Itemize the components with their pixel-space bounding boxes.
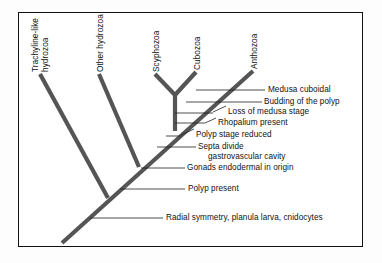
- taxon-label-anthozoa: Anthozoa: [250, 34, 259, 69]
- annotation-medusa-cuboidal: Medusa cuboidal: [268, 85, 331, 94]
- annotation-loss-of-medusa-stage: Loss of medusa stage: [228, 107, 309, 116]
- annotation-gastrovascular-cavity: gastrovascular cavity: [208, 152, 286, 161]
- annotation-radial-symmetry: Radial symmetry, planula larva, cnidocyt…: [166, 213, 323, 222]
- taxon-label-other-hydrozoa: Other hydrozoa: [96, 14, 105, 72]
- annotation-rhopalium-present: Rhopalium present: [218, 118, 288, 127]
- figure-frame: [18, 12, 363, 247]
- annotation-septa-divide: Septa divide: [198, 142, 244, 151]
- taxon-label-cubozoa: Cubozoa: [193, 37, 202, 70]
- taxon-label-trachyline: Trachyline-like hydrozoa: [31, 14, 50, 72]
- annotation-gonads-endodermal: Gonads endodermal in origin: [187, 163, 294, 172]
- taxon-label-trachyline-line2: hydrozoa: [41, 38, 50, 72]
- taxon-label-trachyline-line1: Trachyline-like: [31, 18, 40, 72]
- annotation-polyp-present: Polyp present: [188, 184, 239, 193]
- annotation-polyp-stage-reduced: Polyp stage reduced: [196, 130, 272, 139]
- annotation-budding-of-the-polyp: Budding of the polyp: [264, 97, 340, 106]
- cladogram-figure: Trachyline-like hydrozoa Other hydrozoa …: [0, 0, 382, 263]
- taxon-label-scyphozoa: Scyphozoa: [152, 31, 161, 72]
